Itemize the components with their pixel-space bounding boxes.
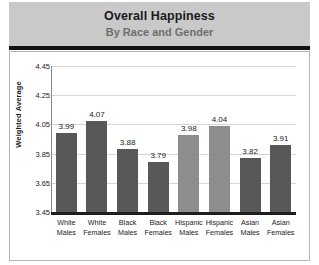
y-axis-tick-label: 3.85 [20, 149, 50, 158]
bar-group: 4.04 [204, 66, 235, 212]
bar[interactable] [240, 158, 261, 212]
bar-value-label: 3.98 [174, 124, 205, 133]
x-axis-labels: WhiteMalesWhiteFemalesBlackMalesBlackFem… [51, 218, 296, 244]
bar-group: 3.82 [235, 66, 266, 212]
bar-value-label: 3.91 [265, 134, 296, 143]
chart-figure: Overall Happiness By Race and Gender Wei… [0, 0, 319, 265]
bar-series: 3.994.073.883.793.984.043.823.91 [51, 66, 296, 212]
plot-area: Weighted Average 4.454.254.053.853.653.4… [0, 0, 319, 265]
bar-group: 3.99 [51, 66, 82, 212]
bar[interactable] [178, 135, 199, 212]
bar-group: 4.07 [82, 66, 113, 212]
y-axis-tick-label: 3.65 [20, 178, 50, 187]
bar-group: 3.79 [143, 66, 174, 212]
bar-group: 3.98 [174, 66, 205, 212]
bar-group: 3.88 [112, 66, 143, 212]
bar-group: 3.91 [265, 66, 296, 212]
bar[interactable] [117, 149, 138, 212]
bar[interactable] [148, 162, 169, 212]
bar[interactable] [86, 121, 107, 212]
x-axis-line [51, 212, 296, 215]
y-axis-tick-label: 4.05 [20, 120, 50, 129]
bar-value-label: 3.99 [51, 122, 82, 131]
bar-value-label: 3.82 [235, 147, 266, 156]
x-axis-category-label: AsianFemales [263, 218, 299, 237]
y-axis-tick-label: 4.45 [20, 62, 50, 71]
y-axis-tick-label: 3.45 [20, 208, 50, 217]
bar-value-label: 3.79 [143, 151, 174, 160]
bar[interactable] [209, 126, 230, 212]
bar-value-label: 3.88 [112, 138, 143, 147]
bar-value-label: 4.04 [204, 115, 235, 124]
y-axis-tick-label: 4.25 [20, 91, 50, 100]
bar-value-label: 4.07 [82, 110, 113, 119]
bar[interactable] [270, 145, 291, 212]
bar[interactable] [56, 133, 77, 212]
